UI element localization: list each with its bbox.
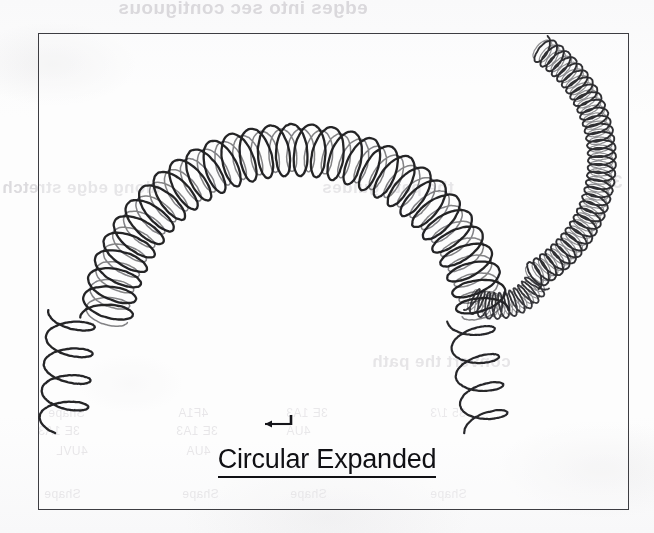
figure-caption: Circular Expanded (0, 444, 654, 478)
left-arrow-with-stem-icon (261, 412, 297, 432)
scanned-page: edges into sec contiguous along edge str… (0, 0, 654, 533)
figure-frame-border (38, 33, 629, 510)
caption-label: Circular Expanded (218, 444, 437, 478)
bleed-top-line: edges into sec contiguous (118, 0, 368, 19)
